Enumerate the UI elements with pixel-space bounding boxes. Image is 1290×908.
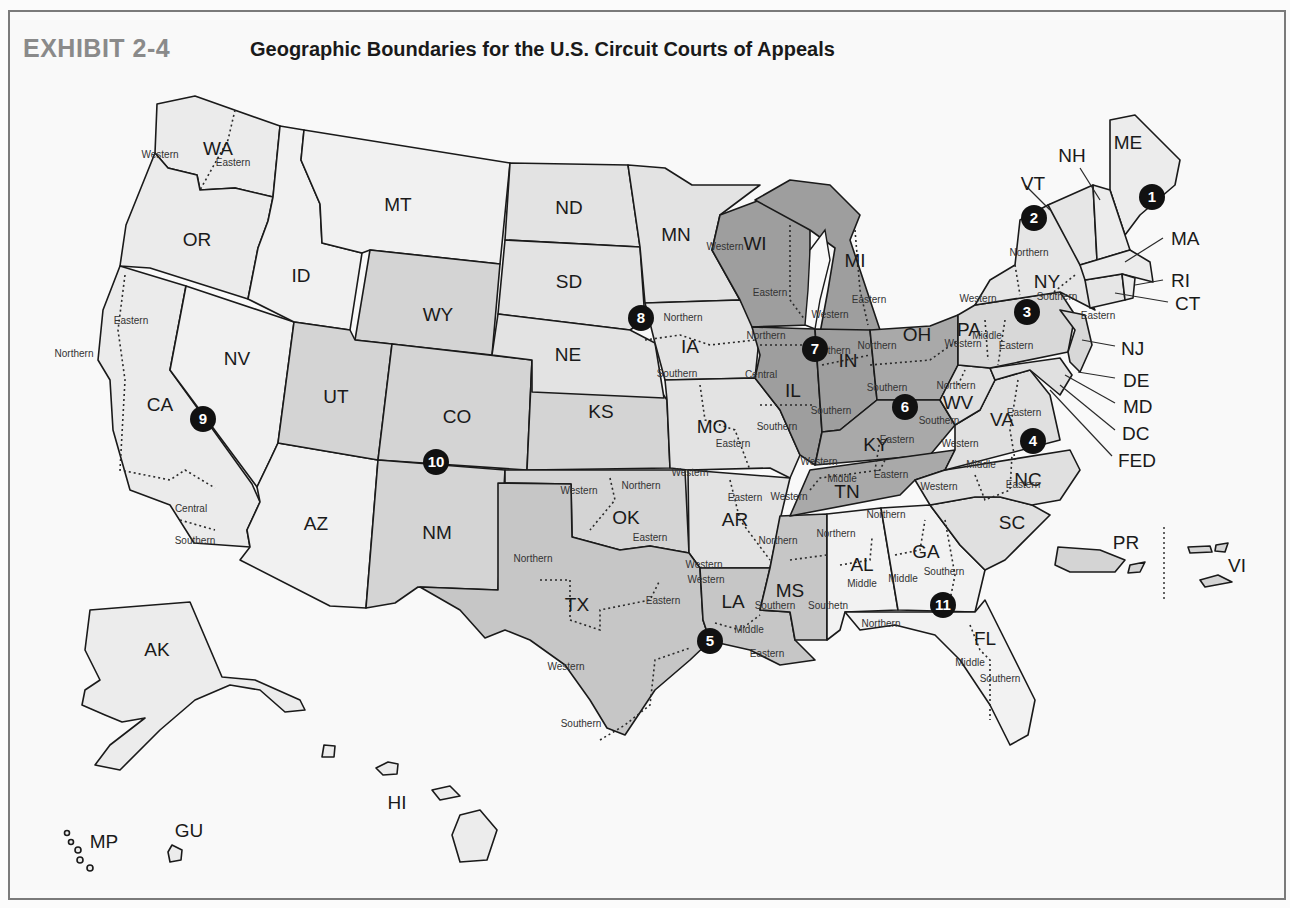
district-label: Western — [685, 559, 722, 570]
circuit-number: 9 — [199, 410, 207, 427]
state-label-TX: TX — [565, 594, 590, 615]
state-label-NE: NE — [555, 344, 581, 365]
district-label: Southern — [867, 382, 908, 393]
district-label: Southern — [1037, 291, 1078, 302]
district-label: Middle — [966, 459, 996, 470]
district-label: Northern — [55, 348, 94, 359]
state-label-OK: OK — [612, 507, 640, 528]
district-label: Western — [959, 293, 996, 304]
state-label-MT: MT — [384, 194, 412, 215]
state-label-HI: HI — [388, 792, 407, 813]
district-label: Western — [770, 491, 807, 502]
district-label: Western — [560, 485, 597, 496]
district-label: Northern — [664, 312, 703, 323]
state-label-MI: MI — [844, 250, 865, 271]
state-label-AR: AR — [722, 509, 748, 530]
state-label-CO: CO — [443, 406, 472, 427]
circuit-marker-8: 8 — [628, 305, 654, 331]
circuit-marker-2: 2 — [1021, 205, 1047, 231]
mp-island — [77, 857, 83, 863]
district-label: Eastern — [716, 438, 750, 449]
state-label-GU: GU — [175, 820, 204, 841]
district-label: Northern — [867, 509, 906, 520]
district-label: Eastern — [852, 294, 886, 305]
circuit-courts-map: WAORCANVIDMTWYUTCOAZNMNDSDNEKSOKTXMNIAMO… — [0, 0, 1290, 908]
circuit-number: 11 — [935, 596, 951, 613]
state-label-MN: MN — [661, 224, 691, 245]
state-label-VT: VT — [1021, 173, 1046, 194]
district-label: Northern — [937, 380, 976, 391]
callout-label-MA: MA — [1171, 228, 1200, 249]
state-label-WY: WY — [423, 304, 454, 325]
district-label: Eastern — [880, 434, 914, 445]
district-label: Western — [706, 241, 743, 252]
district-label: Western — [941, 438, 978, 449]
district-label: Middle — [827, 473, 857, 484]
district-label: Southern — [924, 566, 965, 577]
district-label: Southetn — [808, 600, 848, 611]
district-label: Northern — [817, 528, 856, 539]
state-label-MP: MP — [90, 831, 119, 852]
district-label: Northern — [858, 340, 897, 351]
district-label: Southern — [561, 718, 602, 729]
circuit-marker-4: 4 — [1020, 428, 1046, 454]
district-label: Western — [671, 467, 708, 478]
state-GU — [168, 845, 182, 862]
district-label: Western — [547, 661, 584, 672]
district-label: Northern — [759, 535, 798, 546]
district-label: Northern — [622, 480, 661, 491]
district-label: Northern — [862, 618, 901, 629]
district-label: Southern — [980, 673, 1021, 684]
state-label-WV: WV — [943, 392, 974, 413]
state-label-SC: SC — [999, 512, 1025, 533]
circuit-number: 4 — [1029, 432, 1038, 449]
callout-label-DE: DE — [1123, 370, 1149, 391]
circuit-marker-5: 5 — [697, 628, 723, 654]
state-label-WI: WI — [743, 233, 766, 254]
pr-island — [1128, 562, 1145, 573]
state-label-AZ: AZ — [304, 513, 329, 534]
circuit-marker-1: 1 — [1139, 184, 1165, 210]
circuit-number: 5 — [706, 632, 714, 649]
district-label: Northern — [1010, 247, 1049, 258]
district-label: Middle — [734, 624, 764, 635]
state-label-ME: ME — [1114, 132, 1143, 153]
state-label-ND: ND — [555, 197, 582, 218]
circuit-number: 6 — [901, 398, 909, 415]
state-label-MO: MO — [697, 416, 728, 437]
state-label-MS: MS — [776, 580, 805, 601]
state-label-NV: NV — [224, 348, 251, 369]
district-label: Western — [920, 481, 957, 492]
circuit-marker-3: 3 — [1014, 299, 1040, 325]
state-label-TN: TN — [834, 481, 859, 502]
state-label-IA: IA — [681, 336, 699, 357]
state-label-NM: NM — [422, 522, 452, 543]
district-label: Southern — [919, 415, 960, 426]
vi-island — [1215, 543, 1228, 552]
district-label: Eastern — [216, 157, 250, 168]
district-label: Eastern — [874, 469, 908, 480]
district-label: Eastern — [646, 595, 680, 606]
state-AK — [82, 602, 305, 770]
hi-island — [322, 745, 335, 757]
state-WY — [355, 250, 500, 355]
circuit-number: 1 — [1148, 188, 1156, 205]
district-label: Western — [141, 149, 178, 160]
district-label: Eastern — [728, 492, 762, 503]
mp-island — [87, 865, 93, 871]
district-label: Western — [800, 456, 837, 467]
district-label: Middle — [888, 573, 918, 584]
district-label: Eastern — [114, 315, 148, 326]
callout-label-NJ: NJ — [1121, 338, 1144, 359]
state-label-LA: LA — [721, 591, 745, 612]
district-label: Central — [745, 369, 777, 380]
district-label: Northern — [747, 330, 786, 341]
district-label: Northern — [514, 553, 553, 564]
circuit-marker-9: 9 — [190, 406, 216, 432]
circuit-number: 10 — [428, 453, 445, 470]
callout-label-RI: RI — [1171, 270, 1190, 291]
district-label: Eastern — [750, 648, 784, 659]
callout-label-FED: FED — [1118, 450, 1156, 471]
hi-island — [376, 762, 398, 775]
state-label-UT: UT — [323, 386, 349, 407]
